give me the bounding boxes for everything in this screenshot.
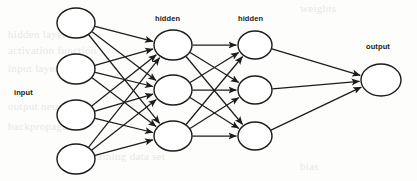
- layer-label-hidden-2: hidden: [238, 14, 263, 23]
- network-graph: [0, 0, 417, 181]
- edges-group: [89, 26, 362, 155]
- edge-input-to-hidden-1: [89, 58, 160, 148]
- edge-input-to-hidden-1: [92, 100, 156, 150]
- edge-hidden-2-to-output: [272, 49, 360, 75]
- edge-hidden-2-to-output: [271, 87, 361, 130]
- neuron-input-2: [57, 54, 95, 84]
- neuron-hidden-2-2: [238, 76, 272, 104]
- neuron-input-3: [57, 100, 95, 130]
- edge-input-to-hidden-1: [95, 72, 153, 86]
- neuron-hidden-1-2: [154, 75, 192, 105]
- neuron-hidden-1-3: [154, 121, 192, 151]
- edge-input-to-hidden-1: [95, 26, 153, 41]
- edge-input-to-hidden-1: [95, 140, 153, 156]
- neural-network-diagram: weightshidden layeractivation functionin…: [0, 0, 417, 181]
- edge-input-to-hidden-1: [95, 49, 153, 65]
- layer-label-output: output: [366, 42, 390, 51]
- edge-input-to-hidden-1: [92, 55, 157, 106]
- neuron-input-1: [57, 8, 95, 38]
- layer-label-input: input: [14, 88, 33, 97]
- neuron-hidden-2-1: [238, 31, 272, 59]
- layer-label-hidden-1: hidden: [155, 14, 180, 23]
- neuron-input-4: [57, 144, 95, 174]
- neuron-output-1: [361, 64, 401, 96]
- neuron-hidden-1-1: [154, 30, 192, 60]
- neuron-hidden-2-3: [238, 122, 272, 150]
- edge-hidden-2-to-output: [272, 81, 359, 88]
